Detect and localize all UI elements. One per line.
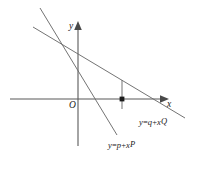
y-axis <box>74 21 82 146</box>
eq-p-slope: P <box>130 139 135 149</box>
y-axis-arrowhead <box>74 21 82 30</box>
marked-point-dot <box>120 97 125 102</box>
x-axis-label: x <box>167 100 171 110</box>
line-p-equation-label: y=p+xP <box>108 141 135 150</box>
y-axis-label: y <box>69 22 73 32</box>
x-axis <box>10 95 169 103</box>
figure-container: y x O y=q+xQ y=p+xP <box>0 0 202 169</box>
line-q-path <box>33 27 185 118</box>
line-q-equation-label: y=q+xQ <box>139 118 167 127</box>
eq-q-slope: Q <box>161 116 167 126</box>
origin-label: O <box>69 101 76 111</box>
line-diagram-svg <box>0 0 202 169</box>
